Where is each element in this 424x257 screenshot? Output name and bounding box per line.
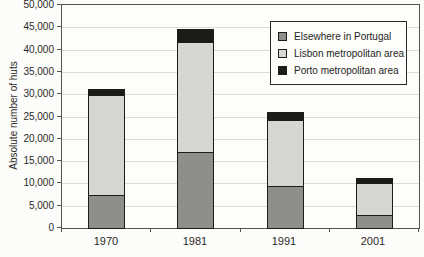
y-axis-tick [57,4,61,5]
bar-segment-1970-series0 [88,195,125,229]
y-axis-tick-label: 35,000 [14,67,54,77]
y-axis-tick-label: 30,000 [14,89,54,99]
stacked-bar-chart-figure: Absolute number of huts 05,00010,00015,0… [0,0,424,257]
y-axis-tick-label: 0 [14,223,54,233]
y-axis-tick-label: 50,000 [14,0,54,10]
legend: Elsewhere in PortugalLisbon metropolitan… [270,21,407,85]
y-axis-tick [57,205,61,206]
y-axis-tick-label: 40,000 [14,45,54,55]
y-axis-tick [57,138,61,139]
y-axis-tick [57,182,61,183]
x-axis-tick [61,228,62,232]
x-axis-tick [329,228,330,232]
y-axis-tick [57,93,61,94]
y-axis-tick-label: 15,000 [14,156,54,166]
legend-label-series0: Elsewhere in Portugal [294,31,391,42]
y-axis-tick-label: 10,000 [14,178,54,188]
legend-item: Elsewhere in Portugal [278,28,399,45]
legend-swatch-series2 [278,66,287,75]
legend-item: Porto metropolitan area [278,62,399,79]
y-axis-tick [57,26,61,27]
bar-segment-2001-series2 [356,178,393,184]
bar-segment-1981-series0 [177,152,214,229]
legend-label-series2: Porto metropolitan area [294,65,399,76]
bar-segment-1981-series1 [177,42,214,153]
y-axis-tick-label: 45,000 [14,22,54,32]
bar-segment-1991-series1 [267,120,304,187]
bar-segment-1991-series2 [267,112,304,121]
x-axis-category-label: 2001 [343,235,403,247]
bar-segment-1970-series1 [88,95,125,196]
x-axis-category-label: 1970 [76,235,136,247]
legend-item: Lisbon metropolitan area [278,45,399,62]
y-axis-tick-label: 20,000 [14,134,54,144]
y-axis-tick-label: 5,000 [14,201,54,211]
bar-segment-1970-series2 [88,89,125,96]
bar-segment-2001-series1 [356,183,393,216]
x-axis-tick [418,228,419,232]
bar-segment-1991-series0 [267,186,304,229]
legend-swatch-series0 [278,32,287,41]
x-axis-category-label: 1981 [165,235,225,247]
x-axis-tick [240,228,241,232]
y-axis-tick [57,49,61,50]
y-axis-tick-label: 25,000 [14,112,54,122]
bar-segment-2001-series0 [356,215,393,229]
legend-swatch-series1 [278,49,287,58]
bar-segment-1981-series2 [177,29,214,43]
x-axis-category-label: 1991 [254,235,314,247]
y-axis-tick [57,116,61,117]
y-axis-tick [57,160,61,161]
y-axis-tick [57,71,61,72]
x-axis-tick [150,228,151,232]
legend-label-series1: Lisbon metropolitan area [294,48,404,59]
